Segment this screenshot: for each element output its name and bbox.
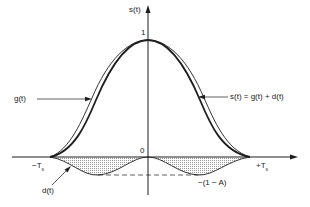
- peak-label: 1: [141, 29, 145, 37]
- x-axis-arrow-icon: [290, 155, 298, 160]
- g-curve-label: g(t): [14, 95, 26, 103]
- d-curve-label: d(t): [42, 187, 54, 195]
- y-axis-label: s(t): [129, 6, 141, 14]
- x-left-label-sub: s: [42, 166, 45, 172]
- g-curve: [50, 40, 250, 157]
- x-left-label-text: −T: [32, 161, 42, 170]
- min-level-label: −(1 − A): [198, 179, 226, 187]
- d-pointer-line: [52, 169, 68, 185]
- s-curve-label: s(t) = g(t) + d(t): [230, 93, 284, 101]
- x-left-label: −Ts: [32, 162, 44, 172]
- x-right-label-sub: s: [266, 166, 269, 172]
- y-axis-arrow-icon: [146, 5, 151, 13]
- s-curve: [50, 40, 250, 157]
- origin-label: 0: [140, 147, 144, 155]
- d-region-shading: [50, 157, 250, 175]
- waveform-diagram: [0, 0, 310, 207]
- x-right-label: +Ts: [256, 162, 268, 172]
- x-right-label-text: +T: [256, 161, 266, 170]
